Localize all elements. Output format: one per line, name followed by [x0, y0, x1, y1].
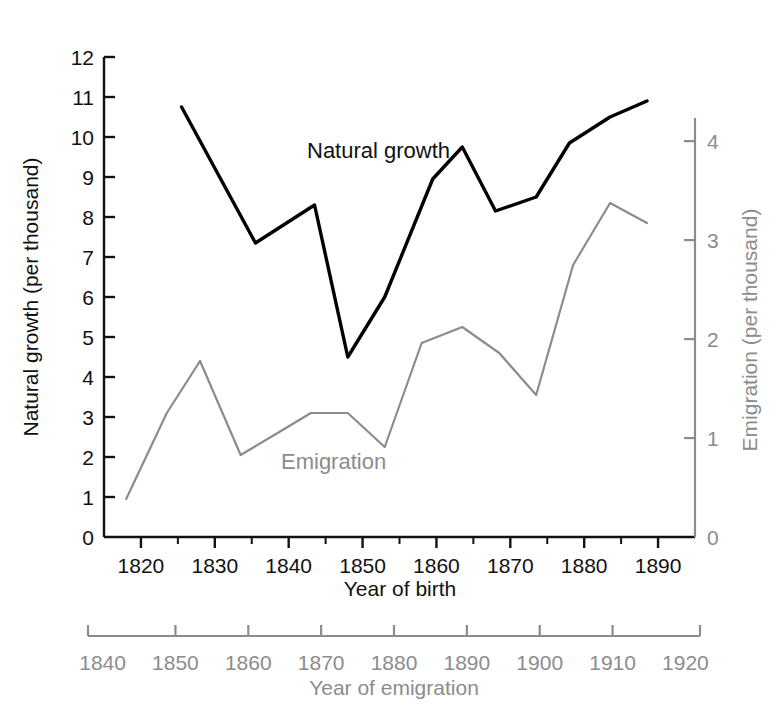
- secondary-axis-tick-label: 1860: [225, 651, 272, 674]
- left-axis-tick-label: 11: [72, 86, 94, 109]
- bottom-axis-tick-label: 1870: [487, 554, 534, 577]
- bottom-axis-title: Year of birth: [344, 577, 456, 600]
- secondary-x-axis: 184018501860187018801890190019101920 Yea…: [79, 625, 709, 699]
- right-axis-title: Emigration (per thousand): [738, 209, 761, 452]
- bottom-axis-tick-label: 1840: [265, 554, 312, 577]
- bottom-x-axis: 18201830184018501860187018801890 Year of…: [104, 537, 695, 600]
- left-axis-ticks: [104, 57, 115, 497]
- left-axis-tick-label: 9: [82, 166, 94, 189]
- secondary-axis-tick-label: 1880: [371, 651, 418, 674]
- bottom-axis-tick-label: 1880: [561, 554, 608, 577]
- left-axis-tick-label: 10: [71, 126, 94, 149]
- right-axis-tick-label: 4: [707, 130, 719, 153]
- left-axis-tick-label: 5: [82, 326, 94, 349]
- left-axis-tick-label: 7: [82, 246, 94, 269]
- left-axis-tick-label: 2: [82, 446, 94, 469]
- chart-figure: 0123456789101112 Natural growth (per tho…: [0, 0, 781, 726]
- dual-axis-line-chart: 0123456789101112 Natural growth (per tho…: [0, 0, 781, 726]
- left-axis-tick-label: 3: [82, 406, 94, 429]
- emigration-line: [126, 203, 647, 499]
- secondary-axis-tick-label: 1900: [516, 651, 563, 674]
- left-y-axis: 0123456789101112 Natural growth (per tho…: [19, 46, 115, 549]
- emigration-label: Emigration: [281, 449, 386, 474]
- right-axis-tick-label: 3: [707, 229, 719, 252]
- natural-growth-label: Natural growth: [307, 138, 450, 163]
- bottom-axis-tick-label: 1830: [191, 554, 238, 577]
- left-axis-tick-label: 6: [82, 286, 94, 309]
- left-axis-tick-label: 4: [82, 366, 94, 389]
- right-axis-tick-labels: 01234: [707, 130, 719, 549]
- secondary-axis-tick-label: 1890: [443, 651, 490, 674]
- secondary-axis-tick-label: 1850: [152, 651, 199, 674]
- bottom-axis-tick-label: 1820: [118, 554, 165, 577]
- left-axis-tick-label: 12: [71, 46, 94, 69]
- right-axis-ticks: [684, 141, 695, 438]
- bottom-axis-ticks: [141, 537, 658, 548]
- secondary-axis-ticks: [175, 625, 612, 636]
- left-axis-title: Natural growth (per thousand): [19, 158, 42, 437]
- right-y-axis: 01234 Emigration (per thousand): [684, 118, 761, 549]
- right-axis-tick-label: 1: [707, 427, 719, 450]
- right-axis-tick-label: 0: [707, 526, 719, 549]
- secondary-axis-tick-labels: 184018501860187018801890190019101920: [79, 651, 709, 674]
- left-axis-tick-label: 0: [82, 526, 94, 549]
- bottom-axis-tick-label: 1860: [413, 554, 460, 577]
- left-axis-tick-label: 8: [82, 206, 94, 229]
- right-axis-tick-label: 2: [707, 328, 719, 351]
- left-axis-tick-labels: 0123456789101112: [71, 46, 95, 549]
- left-axis-tick-label: 1: [82, 486, 94, 509]
- secondary-axis-tick-label: 1920: [662, 651, 709, 674]
- secondary-axis-tick-label: 1910: [589, 651, 636, 674]
- secondary-axis-tick-label: 1840: [79, 651, 126, 674]
- bottom-axis-tick-labels: 18201830184018501860187018801890: [118, 554, 682, 577]
- bottom-axis-tick-label: 1890: [635, 554, 682, 577]
- bottom-axis-tick-label: 1850: [339, 554, 386, 577]
- secondary-axis-title: Year of emigration: [309, 676, 479, 699]
- secondary-axis-tick-label: 1870: [298, 651, 345, 674]
